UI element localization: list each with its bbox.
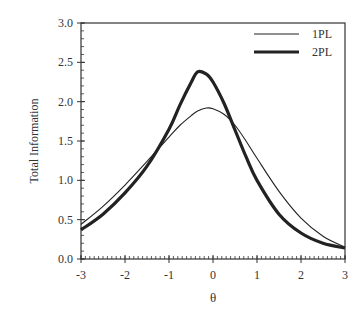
total-information-chart: 0.00.51.01.52.02.53.0-3-2-10123θTotal In… bbox=[0, 0, 364, 320]
legend-label-2pl: 2PL bbox=[312, 45, 332, 59]
x-tick-label: -3 bbox=[76, 268, 86, 282]
legend-label-1pl: 1PL bbox=[312, 27, 332, 41]
y-tick-label: 1.5 bbox=[58, 134, 73, 148]
x-tick-label: 2 bbox=[298, 268, 304, 282]
y-tick-label: 0.0 bbox=[58, 252, 73, 266]
y-tick-label: 2.5 bbox=[58, 55, 73, 69]
y-axis-label: Total Information bbox=[27, 99, 41, 184]
chart-canvas: 0.00.51.01.52.02.53.0-3-2-10123θTotal In… bbox=[0, 0, 364, 320]
x-tick-label: 0 bbox=[210, 268, 216, 282]
x-tick-label: -2 bbox=[120, 268, 130, 282]
x-tick-label: 3 bbox=[342, 268, 348, 282]
plot-frame bbox=[81, 23, 345, 259]
series-line-1pl bbox=[81, 108, 345, 247]
x-tick-label: 1 bbox=[254, 268, 260, 282]
series-line-2pl bbox=[81, 71, 345, 248]
x-axis-label: θ bbox=[210, 290, 216, 305]
y-tick-label: 0.5 bbox=[58, 213, 73, 227]
x-tick-label: -1 bbox=[164, 268, 174, 282]
y-tick-label: 3.0 bbox=[58, 16, 73, 30]
y-tick-label: 1.0 bbox=[58, 173, 73, 187]
y-tick-label: 2.0 bbox=[58, 95, 73, 109]
